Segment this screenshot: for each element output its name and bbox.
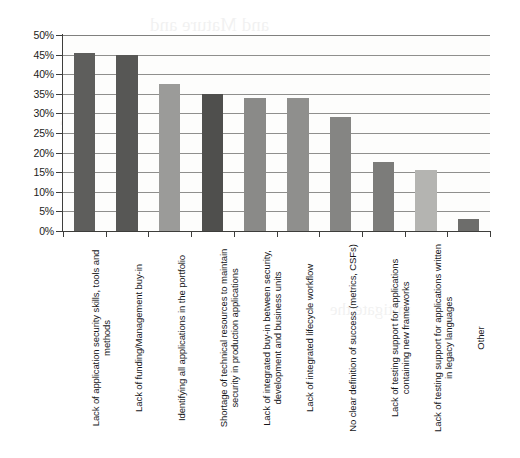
y-axis-tick-mark: [56, 35, 63, 36]
x-axis-category-label: No clear definition of success (metrics,…: [347, 240, 358, 436]
y-axis-tick-label: 35%: [24, 89, 54, 100]
bar: [159, 84, 180, 231]
x-axis-tick-mark: [191, 232, 192, 237]
plot-area: [63, 35, 490, 231]
x-axis-category-label: Lack of application security skills, too…: [90, 240, 112, 436]
x-axis-tick-mark: [362, 232, 363, 237]
x-axis-category-label: Lack of testing support for applications…: [432, 240, 454, 436]
y-axis-tick-labels: 50%45%40%35%30%25%20%15%10%5%0%: [16, 0, 54, 458]
x-axis-category-label: Lack of funding/Management buy-in: [133, 240, 144, 436]
x-axis-category-label: Lack of integrated buy-in between securi…: [261, 240, 283, 436]
bar: [415, 170, 436, 231]
y-axis-tick-mark: [56, 55, 63, 56]
y-axis-tick-mark: [56, 231, 63, 232]
y-axis-tick-label: 50%: [24, 30, 54, 41]
y-axis-tick-label: 20%: [24, 148, 54, 159]
x-axis-tick-mark: [405, 232, 406, 237]
y-axis-tick-label: 15%: [24, 167, 54, 178]
x-axis-tick-mark: [490, 232, 491, 237]
x-axis-category-label: Lack of integrated lifecycle workflow: [304, 240, 315, 436]
y-axis-tick-label: 45%: [24, 50, 54, 61]
x-axis-tick-mark: [234, 232, 235, 237]
y-axis-tick-mark: [56, 153, 63, 154]
y-axis-tick-label: 30%: [24, 108, 54, 119]
y-axis-tick-label: 0%: [24, 226, 54, 237]
bar: [330, 117, 351, 231]
bar: [116, 55, 137, 231]
bar: [458, 219, 479, 231]
x-axis-tick-mark: [319, 232, 320, 237]
x-axis-category-label: Other: [475, 240, 486, 436]
bar-chart: 50%45%40%35%30%25%20%15%10%5%0% Lack of …: [0, 0, 520, 458]
bar: [287, 98, 308, 231]
x-axis-tick-mark: [106, 232, 107, 237]
y-axis-tick-mark: [56, 172, 63, 173]
x-axis-tick-mark: [277, 232, 278, 237]
x-axis-tick-mark: [63, 232, 64, 237]
y-axis-tick-label: 25%: [24, 128, 54, 139]
x-axis-category-label: Identifying all applications in the port…: [176, 240, 187, 436]
y-axis-tick-mark: [56, 192, 63, 193]
x-axis-tick-mark: [148, 232, 149, 237]
x-axis-category-labels: Lack of application security skills, too…: [63, 240, 490, 450]
y-axis-tick-label: 40%: [24, 69, 54, 80]
y-axis-tick-mark: [56, 74, 63, 75]
y-axis-tick-mark: [56, 211, 63, 212]
gridline: [63, 35, 490, 36]
y-axis-tick-label: 10%: [24, 187, 54, 198]
y-axis-tick-mark: [56, 113, 63, 114]
bar: [202, 94, 223, 231]
bar: [74, 53, 95, 231]
y-axis-tick-mark: [56, 133, 63, 134]
x-axis-category-label: Lack of testing support for applications…: [389, 240, 411, 436]
y-axis-tick-mark: [56, 94, 63, 95]
y-axis-tick-label: 5%: [24, 206, 54, 217]
bar: [244, 98, 265, 231]
x-axis-tick-mark: [447, 232, 448, 237]
x-axis-category-label: Shortage of technical resources to maint…: [218, 240, 240, 436]
bar: [373, 162, 394, 231]
